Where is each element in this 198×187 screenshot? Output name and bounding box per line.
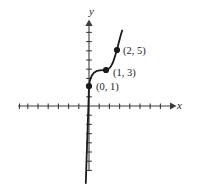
data-point-0-1: [86, 83, 92, 89]
function-curve: [86, 31, 122, 184]
point-label-2-5: (2, 5): [123, 46, 146, 57]
point-label-1-3: (1, 3): [113, 68, 136, 79]
data-point-1-3: [103, 67, 109, 73]
x-axis-label: x: [177, 100, 182, 111]
coordinate-plot: [0, 0, 198, 187]
x-axis-arrowhead: [170, 102, 177, 109]
graph-figure: x y (0, 1) (1, 3) (2, 5): [0, 0, 198, 187]
y-axis-arrowhead: [85, 20, 92, 27]
point-label-0-1: (0, 1): [96, 82, 119, 93]
y-axis-label: y: [89, 6, 94, 17]
data-point-2-5: [114, 47, 120, 53]
